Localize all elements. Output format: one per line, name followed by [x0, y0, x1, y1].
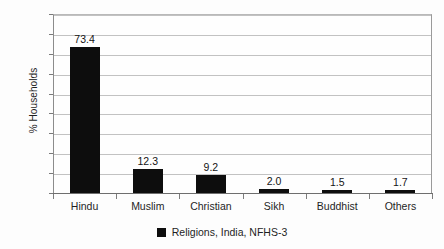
y-tick-mark [49, 94, 53, 95]
x-tick-mark [116, 194, 117, 199]
bar-value-label: 2.0 [249, 176, 299, 187]
y-tick-mark [49, 54, 53, 55]
x-tick-mark [243, 194, 244, 199]
y-tick-mark [49, 113, 53, 114]
y-tick-mark [49, 74, 53, 75]
gridline [54, 134, 431, 135]
gridline [54, 174, 431, 175]
bar [385, 190, 415, 193]
x-tick-mark [306, 194, 307, 199]
bar-value-label: 1.5 [312, 177, 362, 188]
bar [133, 169, 163, 193]
y-axis-title: % Households [28, 21, 39, 181]
gridline [54, 35, 431, 36]
bar [196, 175, 226, 193]
y-tick-mark [49, 34, 53, 35]
gridline [54, 154, 431, 155]
gridline [54, 75, 431, 76]
legend: Religions, India, NFHS-3 [0, 226, 444, 238]
bar-value-label: 12.3 [123, 156, 173, 167]
bar [70, 47, 100, 193]
x-tick-mark [369, 194, 370, 199]
gridline [54, 15, 431, 16]
bar-value-label: 73.4 [60, 34, 110, 45]
bar-value-label: 9.2 [186, 162, 236, 173]
gridline [54, 55, 431, 56]
y-tick-mark [49, 14, 53, 15]
gridline [54, 95, 431, 96]
bar [322, 190, 352, 193]
y-tick-mark [49, 173, 53, 174]
gridline [54, 114, 431, 115]
x-tick-mark [53, 194, 54, 199]
bar [259, 189, 289, 193]
legend-swatch-icon [157, 228, 166, 237]
x-tick-mark [179, 194, 180, 199]
legend-label: Religions, India, NFHS-3 [172, 226, 288, 238]
x-tick-mark [432, 194, 433, 199]
y-tick-mark [49, 133, 53, 134]
x-tick-label: Others [360, 201, 440, 213]
y-tick-mark [49, 153, 53, 154]
plot-area [53, 14, 432, 193]
chart-screenshot: % Households 9080706050403020100 73.412.… [0, 0, 444, 249]
bar-value-label: 1.7 [375, 177, 425, 188]
